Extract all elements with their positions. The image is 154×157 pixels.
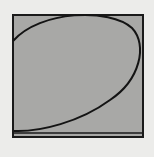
- diagram: [0, 0, 154, 157]
